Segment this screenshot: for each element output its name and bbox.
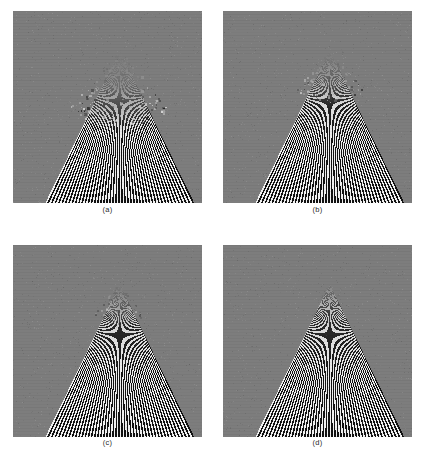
figure-four-panel-grid: (a)(b)(c)(d) (0, 0, 424, 466)
panel-a-image (13, 11, 202, 203)
panel-d-caption: (d) (223, 438, 412, 448)
panel-c-image (13, 245, 202, 437)
panel-d (223, 245, 412, 437)
panel-d-image (223, 245, 412, 437)
panel-b-image (223, 11, 412, 203)
panel-c (13, 245, 202, 437)
panel-b (223, 11, 412, 203)
panel-a-caption: (a) (13, 205, 202, 215)
panel-a (13, 11, 202, 203)
panel-c-caption: (c) (13, 438, 202, 448)
panel-b-caption: (b) (223, 205, 412, 215)
